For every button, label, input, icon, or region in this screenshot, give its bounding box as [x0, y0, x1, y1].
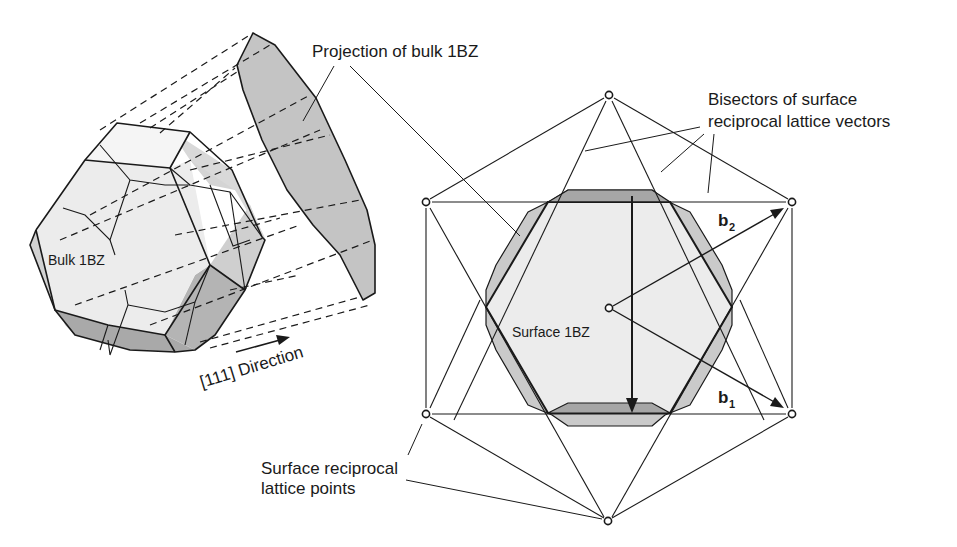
- lattice-point: [604, 517, 611, 524]
- bulk-1bz-label: Bulk 1BZ: [48, 252, 105, 268]
- bisectors-label-line2: reciprocal lattice vectors: [708, 112, 890, 131]
- brillouin-zone-figure: [111] Direction Bulk 1BZ: [0, 0, 957, 547]
- lattice-points-label-line2: lattice points: [261, 479, 356, 498]
- lattice-point: [422, 198, 429, 205]
- lattice-point: [422, 410, 429, 417]
- lattice-point: [788, 198, 795, 205]
- lattice-point: [605, 91, 612, 98]
- vector-b1-label: b: [718, 388, 728, 407]
- bulk-1bz-polyhedron: [30, 123, 265, 355]
- vector-b1-subscript: 1: [729, 398, 735, 410]
- surface-1bz-label: Surface 1BZ: [512, 324, 590, 340]
- bisectors-label-line1: Bisectors of surface: [708, 90, 857, 109]
- lattice-point: [788, 410, 795, 417]
- vector-b2-subscript: 2: [729, 221, 735, 233]
- lattice-points-label-line1: Surface reciprocal: [261, 459, 398, 478]
- projection-label: Projection of bulk 1BZ: [312, 42, 478, 61]
- direction-111-label: [111] Direction: [198, 342, 306, 391]
- vector-b2-label: b: [718, 211, 728, 230]
- lattice-point-origin: [605, 304, 612, 311]
- lattice-points: [422, 91, 795, 524]
